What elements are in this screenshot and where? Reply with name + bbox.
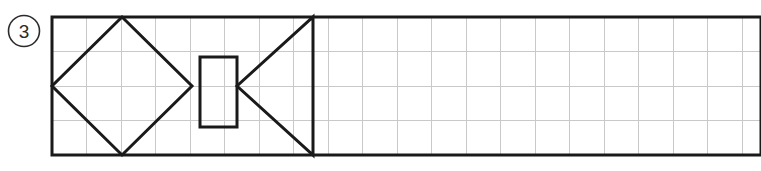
geometry-figure-svg: 3 [0, 0, 761, 171]
figure-container: 3 [0, 0, 761, 171]
question-number-label: 3 [19, 21, 30, 42]
